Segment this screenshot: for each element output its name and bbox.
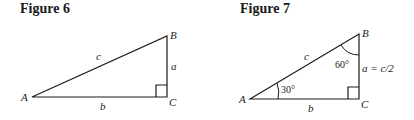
side-c-label: c [96,50,101,62]
right-angle-marker [156,85,167,97]
angle-b-label: 60° [335,59,349,70]
right-angle-marker [348,87,359,99]
angle-a-label: 30° [281,84,295,95]
figure-7-triangle: A B C c a = c/2 b 30° 60° [238,27,394,114]
angle-a-arc [277,83,279,99]
vertex-c-label: C [361,98,369,110]
side-b-label: b [100,100,106,112]
vertex-a-label: A [238,93,246,105]
triangle-outline [32,36,167,97]
side-c-label: c [304,50,309,62]
side-a-label: a [171,60,177,72]
figure-6-triangle: A B C c a b [20,29,177,112]
vertex-a-label: A [20,91,28,103]
angle-b-arc [341,45,359,55]
side-b-label: b [308,102,314,114]
vertex-b-label: B [170,29,177,41]
diagram-canvas: A B C c a b A B C c a = c/2 b 30° 60° [0,0,414,120]
side-a-label: a = c/2 [362,62,394,74]
vertex-c-label: C [169,96,177,108]
vertex-b-label: B [362,27,369,39]
